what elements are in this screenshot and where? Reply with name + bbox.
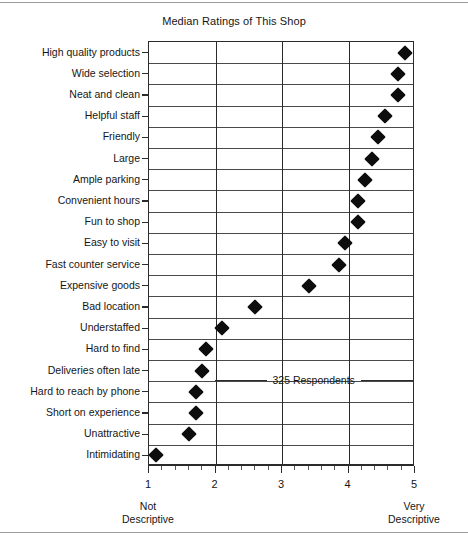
x-axis-minor-tick (254, 466, 255, 470)
data-point-marker (148, 448, 164, 464)
data-point-marker (188, 405, 204, 421)
data-point-marker (391, 87, 407, 103)
y-axis-tick (142, 264, 148, 265)
page-top-rule (0, 2, 468, 3)
category-label: Expensive goods (60, 279, 140, 291)
row-gridline (149, 233, 413, 234)
x-axis-minor-tick (401, 466, 402, 470)
y-axis-tick (142, 285, 148, 286)
y-axis-tick (142, 137, 148, 138)
y-axis-tick (142, 116, 148, 117)
data-point-marker (337, 236, 353, 252)
row-gridline (149, 445, 413, 446)
y-axis-tick (142, 158, 148, 159)
y-axis-tick (142, 94, 148, 95)
data-point-marker (194, 363, 210, 379)
x-axis-tick-label: 3 (266, 478, 296, 490)
category-label: Easy to visit (84, 236, 140, 248)
data-point-marker (371, 130, 387, 146)
row-gridline (149, 106, 413, 107)
row-gridline (149, 212, 413, 213)
x-axis-minor-tick (188, 466, 189, 470)
data-point-marker (301, 278, 317, 294)
x-axis-minor-tick (201, 466, 202, 470)
axis-label-high-line2: Descriptive (354, 513, 468, 526)
y-axis-tick (142, 179, 148, 180)
category-label: Deliveries often late (48, 364, 140, 376)
annotation-leader-right (361, 380, 413, 381)
x-axis-minor-tick (268, 466, 269, 470)
data-point-marker (248, 299, 264, 315)
annotation-label: 325 Respondents (273, 374, 355, 386)
y-axis-tick (142, 391, 148, 392)
annotation-leader-left (215, 380, 267, 381)
row-gridline (149, 275, 413, 276)
x-axis-major-tick (215, 466, 216, 473)
x-axis-tick-label: 1 (133, 478, 163, 490)
x-axis-tick-label: 2 (200, 478, 230, 490)
x-axis-minor-tick (334, 466, 335, 470)
chart-title: Median Ratings of This Shop (0, 15, 468, 27)
x-axis-major-tick (281, 466, 282, 473)
row-gridline (149, 254, 413, 255)
y-axis-tick (142, 306, 148, 307)
category-label: Ample parking (73, 173, 140, 185)
axis-label-low-line1: Not (88, 500, 208, 513)
plot-area (148, 41, 414, 465)
category-label: Hard to reach by phone (30, 385, 140, 397)
row-gridline (149, 84, 413, 85)
y-axis-tick (142, 243, 148, 244)
y-axis-tick (142, 200, 148, 201)
category-label: Intimidating (86, 448, 140, 460)
category-label: Convenient hours (58, 194, 140, 206)
x-axis-major-tick (348, 466, 349, 473)
category-label: Unattractive (84, 427, 140, 439)
category-label: Neat and clean (69, 88, 140, 100)
x-axis-major-tick (148, 466, 149, 473)
y-axis-tick (142, 434, 148, 435)
y-axis-tick (142, 349, 148, 350)
data-point-marker (351, 214, 367, 230)
data-point-marker (181, 426, 197, 442)
row-gridline (149, 190, 413, 191)
y-axis-tick (142, 412, 148, 413)
row-gridline (149, 339, 413, 340)
x-axis-minor-tick (241, 466, 242, 470)
value-gridline (349, 42, 350, 464)
data-point-marker (397, 45, 413, 61)
row-gridline (149, 148, 413, 149)
y-axis-tick (142, 455, 148, 456)
row-gridline (149, 127, 413, 128)
data-point-marker (377, 108, 393, 124)
row-gridline (149, 63, 413, 64)
axis-label-high-line1: Very (354, 500, 468, 513)
x-axis-minor-tick (361, 466, 362, 470)
x-axis-minor-tick (161, 466, 162, 470)
row-gridline (149, 169, 413, 170)
x-axis-major-tick (414, 466, 415, 473)
y-axis-tick (142, 222, 148, 223)
x-axis-minor-tick (308, 466, 309, 470)
row-gridline (149, 424, 413, 425)
category-label: Large (113, 152, 140, 164)
category-label: Friendly (103, 130, 140, 142)
axis-label-low-line2: Descriptive (88, 513, 208, 526)
row-gridline (149, 360, 413, 361)
category-label: Short on experience (46, 406, 140, 418)
category-label: Understaffed (80, 321, 140, 333)
x-axis-tick-label: 5 (399, 478, 429, 490)
row-gridline (149, 402, 413, 403)
data-point-marker (364, 151, 380, 167)
x-axis-minor-tick (175, 466, 176, 470)
x-axis-tick-label: 4 (333, 478, 363, 490)
data-point-marker (357, 172, 373, 188)
row-gridline (149, 296, 413, 297)
x-axis-minor-tick (387, 466, 388, 470)
respondents-annotation: 325 Respondents (215, 374, 413, 386)
x-axis-minor-tick (228, 466, 229, 470)
category-label: Wide selection (72, 67, 140, 79)
data-point-marker (331, 257, 347, 273)
category-label: Fast counter service (45, 258, 140, 270)
category-label: Hard to find (86, 342, 140, 354)
x-axis-minor-tick (321, 466, 322, 470)
